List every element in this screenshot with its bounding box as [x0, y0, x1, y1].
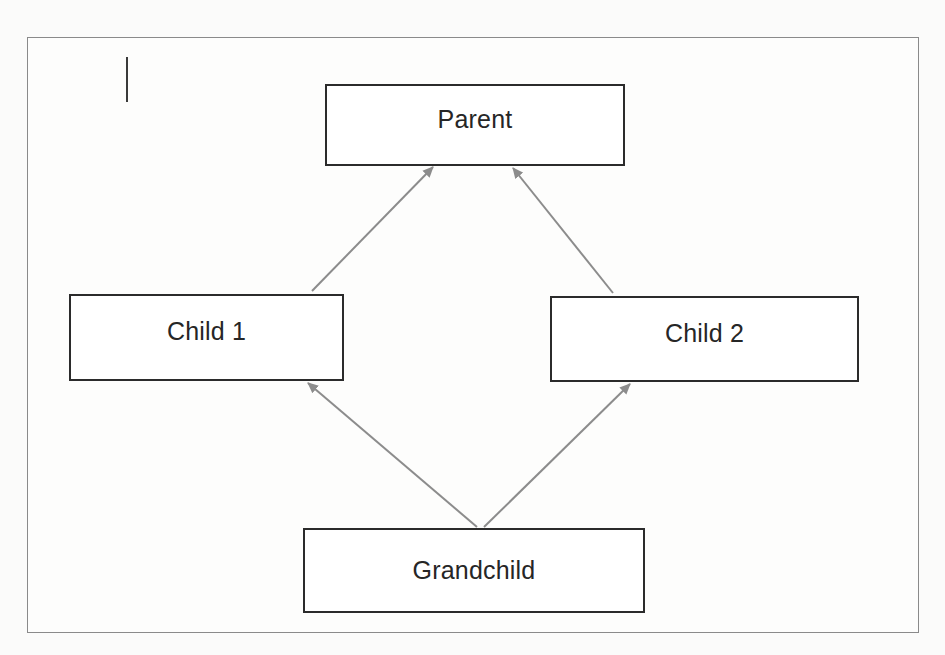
text-cursor: [126, 57, 128, 102]
node-parent[interactable]: Parent: [325, 84, 625, 166]
node-label: Child 1: [167, 317, 246, 346]
node-child-1[interactable]: Child 1: [69, 294, 344, 381]
node-grandchild[interactable]: Grandchild: [303, 528, 645, 613]
node-label: Grandchild: [413, 556, 536, 585]
node-label: Child 2: [665, 319, 744, 348]
node-label: Parent: [438, 105, 513, 134]
node-child-2[interactable]: Child 2: [550, 296, 859, 382]
